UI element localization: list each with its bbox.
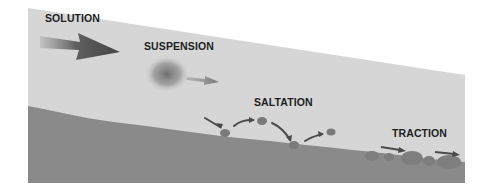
label-suspension: SUSPENSION bbox=[144, 40, 214, 52]
label-traction: TRACTION bbox=[392, 127, 447, 139]
label-solution: SOLUTION bbox=[45, 12, 100, 24]
label-saltation: SALTATION bbox=[254, 96, 313, 108]
suspension-cloud-icon bbox=[145, 56, 189, 92]
sediment-transport-diagram bbox=[0, 0, 489, 194]
